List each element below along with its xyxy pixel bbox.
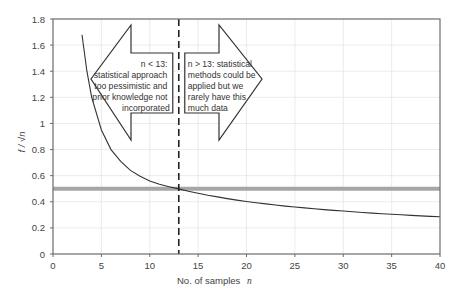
left-arrow-line: statistical approach — [94, 70, 168, 80]
left-arrow-line: too pessimistic and — [94, 81, 167, 91]
x-tick-label: 20 — [241, 260, 252, 271]
x-tick-label: 30 — [338, 260, 349, 271]
y-tick-label: 0.6 — [32, 170, 45, 181]
right-arrow-line: methods could be — [188, 70, 256, 80]
right-arrow-line: applied but we — [188, 81, 244, 91]
right-arrow-line: rarely have this — [188, 92, 246, 102]
y-tick-label: 1 — [40, 118, 45, 129]
x-tick-label: 10 — [144, 260, 155, 271]
y-tick-label: 0 — [40, 249, 45, 260]
x-axis-label: No. of samples n — [177, 275, 252, 286]
y-axis-label: f / √n — [16, 131, 27, 152]
x-tick-label: 40 — [435, 260, 446, 271]
right-arrow-line: much data — [188, 103, 228, 113]
left-arrow-line: incorporated — [122, 103, 170, 113]
y-tick-label: 1.4 — [32, 66, 45, 77]
chart: n < 13: statistical approach too pessimi… — [0, 0, 451, 297]
y-tick-label: 1.2 — [32, 92, 45, 103]
x-tick-label: 5 — [99, 260, 104, 271]
left-arrow-line: prior knowledge not — [92, 92, 168, 102]
x-axis-label-text: No. of samples — [177, 275, 241, 286]
left-arrow-line: n < 13: — [141, 59, 168, 69]
x-tick-label: 25 — [290, 260, 301, 271]
x-tick-label: 0 — [50, 260, 55, 271]
x-tick-label: 15 — [193, 260, 204, 271]
y-tick-label: 0.8 — [32, 144, 45, 155]
annotation-layer: n < 13: statistical approach too pessimi… — [91, 25, 262, 140]
y-tick-label: 0.2 — [32, 222, 45, 233]
x-tick-label: 35 — [386, 260, 397, 271]
y-tick-label: 0.4 — [32, 196, 45, 207]
y-tick-label: 1.8 — [32, 14, 45, 25]
y-tick-label: 1.6 — [32, 40, 45, 51]
x-axis-label-var: n — [247, 276, 252, 286]
right-arrow-line: n > 13: statistical — [188, 59, 252, 69]
y-axis-label-text: f / √n — [16, 131, 27, 152]
